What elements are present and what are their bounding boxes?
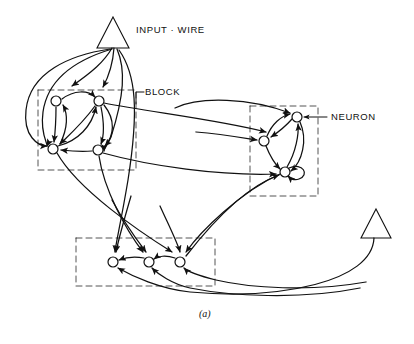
wire-L3-to-bottomB3: [57, 153, 172, 252]
neuron-label: NEURON: [331, 111, 376, 122]
wire-L4-to-L3: [61, 150, 92, 151]
wire-L1-to-L3: [54, 107, 56, 142]
neuron-node[interactable]: [144, 257, 154, 267]
wire-input-to-L4: [104, 49, 123, 151]
figure-caption: (a): [199, 308, 211, 320]
neuron-node[interactable]: [175, 257, 185, 267]
wire-external-to-R1: [175, 100, 290, 113]
input-wire-bottom-triangle: [361, 209, 391, 238]
wire-R3-to-bottomB3: [186, 174, 280, 252]
block-label: BLOCK: [145, 86, 180, 97]
input-wire-top-triangle: [97, 17, 129, 48]
wire-bottomB2-to-bottomB1: [119, 257, 144, 260]
wire-external-to-R2: [196, 132, 257, 140]
neuron-node[interactable]: [51, 96, 61, 106]
wire-R2-to-R3: [266, 146, 280, 169]
wire-cross-to-bottomB3: [160, 206, 180, 252]
wire-bottom-return-to-B3: [184, 268, 366, 288]
wire-bottomB3-to-R3: [186, 175, 279, 256]
neuron-node[interactable]: [292, 112, 302, 122]
network-diagram: INPUT · WIRE BLOCK NEURON (a): [0, 0, 414, 344]
input-wire-label: INPUT · WIRE: [136, 24, 205, 35]
wire-cross-to-bottomB2: [112, 200, 146, 252]
leader-line-block: [136, 92, 144, 104]
wire-L2-to-L4-outer: [104, 105, 112, 146]
wire-L1-to-L2: [62, 92, 95, 99]
neuron-node[interactable]: [108, 257, 118, 267]
figure-container: INPUT · WIRE BLOCK NEURON (a): [0, 0, 414, 344]
wire-bottomB3-to-bottomB2: [154, 256, 175, 259]
neuron-node[interactable]: [280, 167, 290, 177]
wire-R3-to-R1: [287, 124, 298, 167]
block-right-boundary: [250, 106, 318, 196]
wire-R1-to-R2: [271, 119, 292, 137]
neuron-node[interactable]: [93, 145, 103, 155]
neuron-node[interactable]: [48, 144, 58, 154]
neuron-node[interactable]: [94, 96, 104, 106]
wire-L2-to-L4: [101, 107, 103, 144]
neuron-node[interactable]: [259, 136, 269, 146]
wire-R1-to-R3: [291, 122, 304, 171]
wire-L2-to-R1: [104, 103, 266, 132]
